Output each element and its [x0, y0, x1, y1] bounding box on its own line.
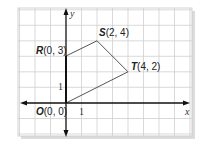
x-unit-tick-label: 1	[79, 107, 84, 117]
coordinate-plane-figure: y x 1 1 R(0, 3) S(2, 4) T(4, 2) O(0, 0)	[0, 0, 200, 147]
x-axis-label: x	[185, 107, 189, 117]
grid-svg	[0, 0, 200, 147]
point-label-R: R(0, 3)	[36, 46, 67, 56]
point-label-S: S(2, 4)	[99, 28, 129, 38]
point-label-O: O(0, 0)	[36, 107, 67, 117]
point-label-T: T(4, 2)	[131, 62, 160, 72]
y-unit-tick-label: 1	[58, 82, 63, 92]
y-axis-label: y	[70, 9, 74, 19]
